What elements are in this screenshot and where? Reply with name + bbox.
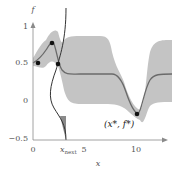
optimum-point: [135, 112, 140, 117]
y-axis-arrow-icon: [31, 22, 36, 28]
observation-point: [56, 62, 61, 67]
xtick-0: 0: [30, 145, 35, 154]
ytick-0.5: 0.5: [15, 58, 28, 67]
optimum-annotation: (x*, f*): [104, 119, 135, 129]
ytick-neg0.5: −0.5: [9, 134, 28, 143]
xtick-5: 5: [81, 145, 86, 154]
observation-point: [50, 41, 55, 46]
xtick-next: xnext: [60, 145, 77, 155]
observation-point: [36, 61, 41, 66]
xtick-10: 10: [131, 145, 141, 154]
gp-plot: 1 0.5 0 −0.5 0 xnext 5 10 f x (x*, f*): [0, 0, 176, 174]
ytick-0: 0: [23, 96, 28, 105]
y-axis-label: f: [31, 5, 37, 14]
x-axis-label: x: [96, 159, 101, 168]
ytick-1: 1: [23, 22, 28, 31]
x-axis-arrow-icon: [162, 138, 168, 143]
